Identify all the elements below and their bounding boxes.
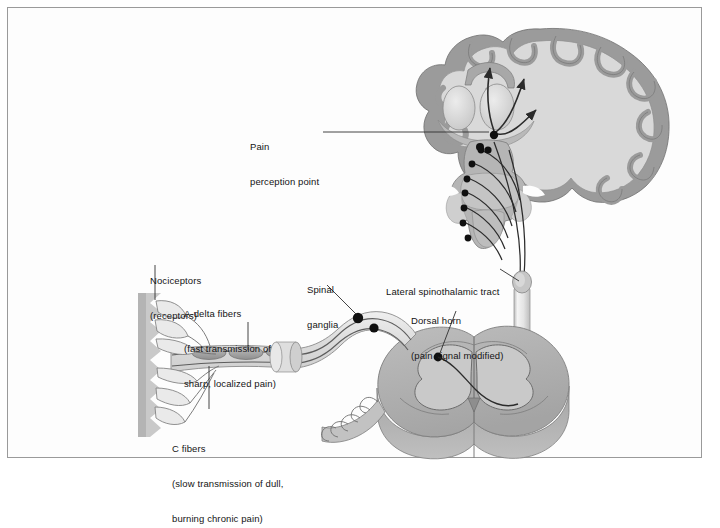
pain-perception-dot [490,131,498,139]
label-pain-perception-point: Pain perception point [250,118,319,211]
brain-group [416,28,669,248]
label-line: A-delta fibers [184,308,276,320]
nucleus-dot [461,205,468,212]
nucleus-dot [462,190,469,197]
label-dorsal-horn: Dorsal horn (pain signal modified) [411,292,504,385]
tract-top-highlight [515,273,525,287]
relay-dot-upper [476,143,484,151]
label-line: sharp, localized pain) [184,378,276,390]
nucleus-dot [465,235,472,242]
label-line: ganglia [307,319,338,331]
label-line: Pain [250,141,319,153]
label-line: perception point [250,176,319,188]
skin-band-edge-shade [138,293,146,437]
spinal-nerve-root [322,400,385,442]
nucleus-dot [460,220,467,227]
label-line: Dorsal horn [411,315,504,327]
thalamus-right [480,84,514,130]
label-c-fibers: C fibers (slow transmission of dull, bur… [172,420,283,528]
label-line: (pain signal modified) [411,350,504,362]
ganglion-dot-distal [369,323,378,332]
label-line: (fast transmission of [184,343,276,355]
label-line: (slow transmission of dull, [172,478,283,490]
nucleus-dot [464,176,471,183]
label-a-delta-fibers: A-delta fibers (fast transmission of sha… [184,285,276,413]
ganglion-dot-proximal [353,313,363,323]
label-line: Spinal [307,284,338,296]
thalamus-left [443,86,475,130]
nucleus-dot [469,161,476,168]
relay-dot-lower [484,146,491,153]
label-line: burning chronic pain) [172,513,283,525]
label-spinal-ganglia: Spinal ganglia [307,261,338,354]
label-line: C fibers [172,443,283,455]
